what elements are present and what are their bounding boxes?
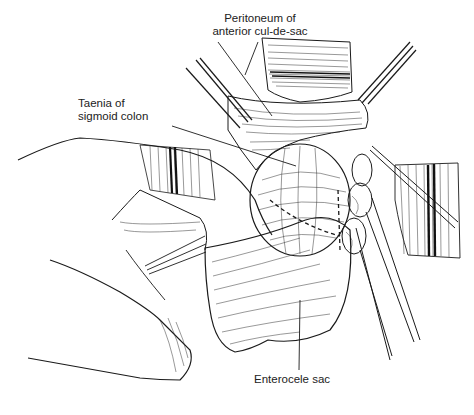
label-taenia-line2: sigmoid colon <box>78 110 148 123</box>
label-taenia-sigmoid-colon: Taenia of sigmoid colon <box>78 97 148 123</box>
leader-enterocele <box>299 300 300 370</box>
leader-peritoneum-right <box>245 42 258 75</box>
surgical-illustration: Peritoneum of anterior cul-de-sac Taenia… <box>0 0 474 415</box>
bowel-loops <box>342 154 372 254</box>
label-taenia-line1: Taenia of <box>78 97 148 110</box>
label-enterocele-sac: Enterocele sac <box>254 373 330 386</box>
right-retractor-blade <box>395 163 460 258</box>
label-peritoneum-line2: anterior cul-de-sac <box>190 25 330 38</box>
illustration-drawing <box>0 0 474 415</box>
peritoneum-sheet <box>228 96 368 170</box>
sigmoid-colon <box>250 144 350 256</box>
label-peritoneum-anterior-cul-de-sac: Peritoneum of anterior cul-de-sac <box>190 12 330 38</box>
top-retractor-blade <box>262 38 352 102</box>
enterocele-sac <box>205 190 351 352</box>
label-peritoneum-line1: Peritoneum of <box>190 12 330 25</box>
surgeon-hand <box>18 138 272 380</box>
left-clamp-instrument <box>186 58 252 128</box>
left-lateral-wall <box>140 145 215 200</box>
right-clamp-instrument <box>358 42 416 104</box>
